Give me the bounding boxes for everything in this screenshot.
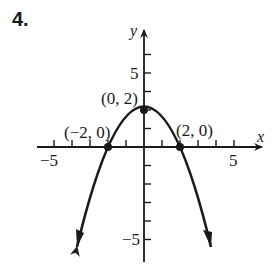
- arrow-right-end-icon: [203, 230, 212, 247]
- right-intercept-point: [176, 143, 184, 151]
- arrow-left-end-icon: [76, 229, 84, 247]
- vertex-point: [140, 106, 148, 114]
- parabola-graph: x y −5 5 5 −5 (0, 2) (−2, 0) (2, 0): [0, 0, 278, 278]
- x-axis-label: x: [256, 128, 264, 145]
- x-tick-label-5: 5: [229, 151, 238, 170]
- right-intercept-label: (2, 0): [176, 121, 213, 140]
- y-tick-label-neg5: −5: [122, 230, 140, 249]
- vertex-label: (0, 2): [101, 89, 138, 108]
- left-intercept-label: (−2, 0): [64, 123, 110, 142]
- y-tick-label-5: 5: [130, 64, 139, 83]
- x-tick-label-neg5: −5: [40, 151, 58, 170]
- y-axis-label: y: [128, 22, 138, 40]
- left-intercept-point: [104, 143, 112, 151]
